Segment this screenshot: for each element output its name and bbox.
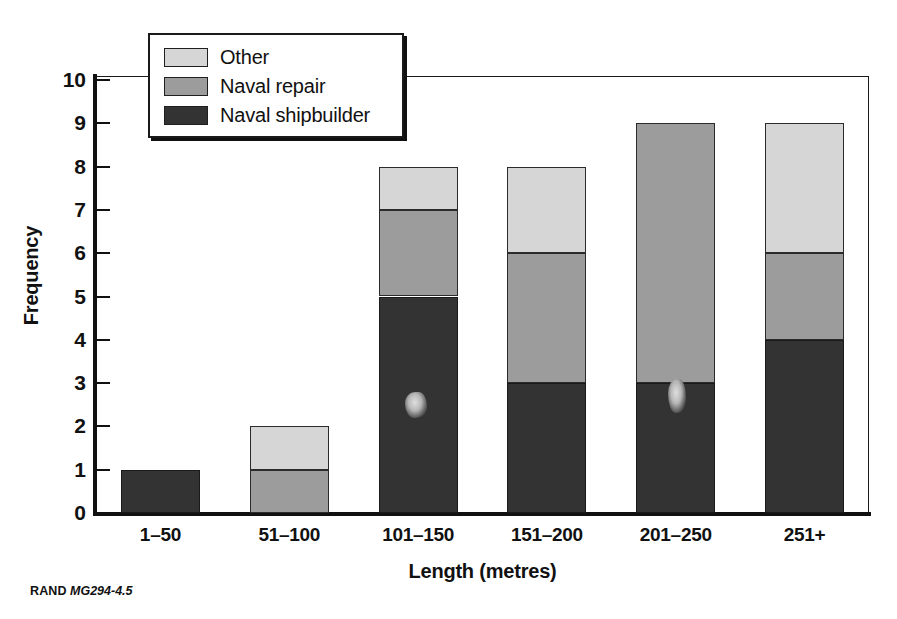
y-axis-tick-label-text: 10 <box>48 69 86 90</box>
chart-legend: Other Naval repair Naval shipbuilder <box>148 33 404 138</box>
bar-segment <box>507 253 586 383</box>
bar-segment <box>250 470 329 513</box>
legend-swatch-other-icon <box>164 48 208 67</box>
y-axis-tick-label-text: 5 <box>48 286 86 307</box>
y-axis-tick-label-7: 7 <box>48 199 86 220</box>
legend-label-other: Other <box>220 46 269 69</box>
x-axis-tick-label: 251+ <box>735 524 875 546</box>
y-axis-tick-label-text: 8 <box>48 156 86 177</box>
bar-segment <box>250 426 329 469</box>
y-axis-tick-4 <box>97 339 110 341</box>
y-axis-tick-8 <box>97 166 110 168</box>
y-axis-tick-label-4: 4 <box>48 329 86 350</box>
figure-caption: RAND MG294-4.5 <box>30 584 133 598</box>
y-axis-tick-label-3: 3 <box>48 372 86 393</box>
y-axis-tick-3 <box>97 382 110 384</box>
legend-label-naval-shipbuilder: Naval shipbuilder <box>220 104 370 127</box>
y-axis-tick-label-text: 0 <box>48 502 86 523</box>
legend-swatch-naval-shipbuilder-icon <box>164 106 208 125</box>
y-axis-tick-5 <box>97 296 110 298</box>
y-axis-tick-7 <box>97 209 110 211</box>
bar-group <box>507 0 586 513</box>
y-axis-tick-label-text: 1 <box>48 459 86 480</box>
y-axis-tick-10 <box>97 79 110 81</box>
y-axis-tick-label-5: 5 <box>48 286 86 307</box>
bar-group <box>765 0 844 513</box>
bar-segment <box>765 123 844 253</box>
bar-segment <box>765 340 844 513</box>
y-axis-tick-label-9: 9 <box>48 112 86 133</box>
y-axis-tick-9 <box>97 122 110 124</box>
y-axis-title: Frequency <box>20 201 43 351</box>
legend-item-naval-repair: Naval repair <box>164 72 402 101</box>
bar-segment <box>636 123 715 383</box>
y-axis-tick-label-text: 7 <box>48 199 86 220</box>
figure-container: Frequency 012345678910 1–5051–100101–150… <box>0 0 897 619</box>
y-axis-tick-label-text: 2 <box>48 415 86 436</box>
bar-segment <box>379 167 458 210</box>
y-axis-tick-label-1: 1 <box>48 459 86 480</box>
bar-segment <box>507 383 586 513</box>
bar-segment <box>765 253 844 340</box>
y-axis-tick-1 <box>97 469 110 471</box>
x-axis-title: Length (metres) <box>96 560 869 583</box>
y-axis-tick-2 <box>97 425 110 427</box>
y-axis-tick-6 <box>97 252 110 254</box>
x-axis-tick-label: 51–100 <box>219 524 359 546</box>
y-axis-tick-label-text: 4 <box>48 329 86 350</box>
y-axis-tick-label-0: 0 <box>48 502 86 523</box>
y-axis-tick-0 <box>97 512 110 514</box>
y-axis-tick-label-8: 8 <box>48 156 86 177</box>
legend-swatch-naval-repair-icon <box>164 77 208 96</box>
y-axis-tick-label-text: 6 <box>48 242 86 263</box>
bar-segment <box>507 167 586 254</box>
x-axis-tick-label: 101–150 <box>348 524 488 546</box>
y-axis-tick-label-text: 3 <box>48 372 86 393</box>
y-axis-tick-label-2: 2 <box>48 415 86 436</box>
bar-segment <box>379 297 458 514</box>
x-axis-tick-label: 151–200 <box>477 524 617 546</box>
bar-segment <box>636 383 715 513</box>
bar-segment <box>379 210 458 297</box>
y-axis-tick-label-text: 9 <box>48 112 86 133</box>
x-axis-line <box>93 512 871 516</box>
legend-item-other: Other <box>164 43 402 72</box>
publisher-label: RAND <box>30 584 67 598</box>
y-axis-tick-label-6: 6 <box>48 242 86 263</box>
y-axis-tick-label-10: 10 <box>48 69 86 90</box>
bar-segment <box>121 470 200 513</box>
bar-group <box>636 0 715 513</box>
x-axis-tick-label: 201–250 <box>606 524 746 546</box>
figure-number-label: MG294-4.5 <box>70 584 133 598</box>
legend-label-naval-repair: Naval repair <box>220 75 325 98</box>
plot-area <box>96 76 869 514</box>
x-axis-tick-label: 1–50 <box>90 524 230 546</box>
legend-item-naval-shipbuilder: Naval shipbuilder <box>164 101 402 130</box>
